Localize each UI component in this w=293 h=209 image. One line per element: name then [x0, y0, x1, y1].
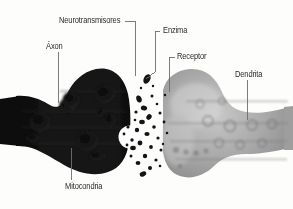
label-axon: Áxon: [46, 43, 63, 51]
label-neurotransmisores: Neurotransmisores: [59, 17, 120, 25]
label-mitocondria: Mitocondria: [65, 183, 102, 191]
synapse-diagram: Neurotransmisores Áxon Enzima Receptor D…: [0, 0, 293, 209]
label-receptor: Receptor: [177, 53, 206, 61]
label-enzima: Enzima: [163, 27, 187, 35]
synapse-illustration: [0, 0, 293, 209]
label-dendrita: Dendrita: [235, 71, 262, 79]
